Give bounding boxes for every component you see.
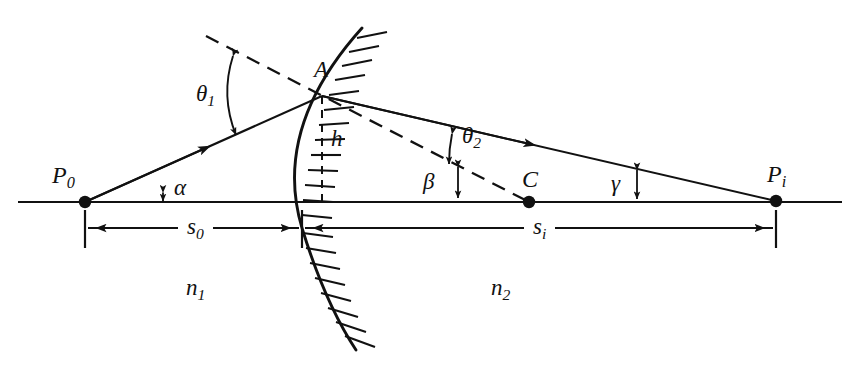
height-base: h [331,126,343,151]
center-point-dot [523,196,535,208]
label-angle-theta2: θ2 [462,124,481,151]
image-point-base: P [767,161,782,187]
label-distance-si: si [524,215,555,242]
incident-ray [85,96,322,202]
n2-base: n [491,275,503,300]
surface-point-base: A [314,57,328,82]
si-base: s [533,214,542,239]
image-point-sub: i [782,172,787,191]
n1-base: n [186,275,198,300]
theta1-sub: 1 [207,92,215,109]
label-distance-s0: s0 [178,215,213,242]
object-point-base: P [52,162,67,188]
label-index-n2: n2 [491,276,510,303]
si-sub: i [542,225,546,242]
alpha-base: α [174,175,186,200]
center-point-base: C [522,166,538,192]
beta-base: β [423,169,434,194]
label-angle-alpha: α [174,176,186,199]
label-angle-beta: β [423,170,434,193]
label-height-h: h [331,127,343,150]
refracted-ray [322,96,776,201]
object-point-sub: 0 [67,173,75,192]
theta1-base: θ [196,81,207,106]
angle-theta1-arc [227,56,236,135]
s0-sub: 0 [196,225,204,242]
n1-sub: 1 [198,286,206,303]
label-object-point: P0 [52,163,75,192]
optics-figure: P0 Pi C A h α β γ θ1 θ2 n1 n2 s0 si [0,0,860,374]
label-image-point: Pi [767,162,786,191]
label-center-point: C [522,167,538,191]
object-point-dot [79,196,91,208]
image-point-dot [770,195,782,207]
gamma-base: γ [611,171,620,196]
s0-base: s [187,214,196,239]
theta2-sub: 2 [473,134,481,151]
n2-sub: 2 [503,286,511,303]
angle-theta2-marker [449,134,452,164]
label-angle-gamma: γ [611,172,620,195]
label-surface-point-a: A [314,58,328,81]
label-angle-theta1: θ1 [196,82,215,109]
theta2-base: θ [462,123,473,148]
label-index-n1: n1 [186,276,205,303]
